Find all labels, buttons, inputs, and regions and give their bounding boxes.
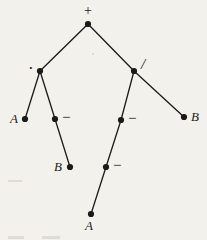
tree-edge: [91, 167, 106, 214]
tree-node-leaf-b-left: [67, 164, 73, 170]
node-label-root: +: [84, 4, 92, 18]
tree-canvas: [0, 0, 207, 240]
tree-node-mul: [37, 68, 43, 74]
node-label-div: /: [141, 57, 145, 72]
tree-node-neg-right-2: [103, 164, 109, 170]
tree-node-root: [85, 21, 91, 27]
scan-artifact-smudge-bottom-1: [8, 236, 24, 239]
tree-node-neg-right-1: [118, 117, 124, 123]
node-label-neg-left: −: [62, 110, 70, 125]
tree-edge: [40, 71, 55, 119]
scan-artifact-smudge-bottom-2: [42, 236, 60, 239]
tree-node-neg-left: [52, 116, 58, 122]
tree-node-leaf-a-bot: [88, 211, 94, 217]
tree-node-leaf-b-right: [181, 114, 187, 120]
tree-edge: [88, 24, 134, 71]
node-label-leaf-b-right: B: [191, 110, 199, 123]
node-label-leaf-a-left: A: [10, 112, 18, 125]
node-label-leaf-a-bot: A: [85, 219, 93, 232]
node-label-neg-right-1: −: [128, 111, 136, 126]
scan-artifact-speck-mid: [92, 53, 94, 55]
tree-node-leaf-a-left: [22, 116, 28, 122]
edge-layer: [25, 24, 184, 214]
node-label-neg-right-2: −: [113, 158, 121, 173]
tree-edge: [134, 71, 184, 117]
tree-edge: [40, 24, 88, 71]
tree-edge: [25, 71, 40, 119]
node-label-mul: ·: [28, 66, 34, 73]
tree-node-div: [131, 68, 137, 74]
scan-artifact-smudge-left: [8, 180, 22, 182]
expression-tree-figure: +·/A−B−−AB: [0, 0, 207, 240]
node-label-leaf-b-left: B: [54, 160, 62, 173]
node-layer: [22, 21, 187, 217]
